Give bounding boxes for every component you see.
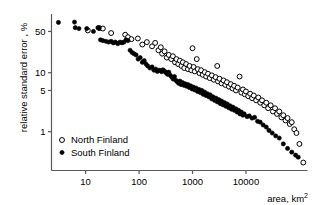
- data-point: [190, 46, 195, 51]
- data-point: [85, 26, 89, 30]
- data-point: [290, 150, 294, 154]
- data-point: [162, 49, 167, 54]
- data-point: [77, 26, 81, 30]
- data-point: [270, 131, 274, 135]
- data-point: [285, 146, 289, 150]
- x-tick-label: 100: [131, 176, 147, 187]
- legend-label: South Finland: [71, 147, 130, 158]
- data-point: [215, 64, 220, 69]
- y-tick-label: 5: [40, 85, 45, 96]
- data-point: [252, 115, 256, 119]
- x-tick-label: 1000: [182, 176, 203, 187]
- legend-marker-open-circle: [60, 138, 65, 143]
- scatter-chart-figure: 10100100010000151050 North FinlandSouth …: [0, 0, 312, 205]
- y-tick-label: 10: [35, 67, 46, 78]
- data-point: [97, 26, 101, 30]
- x-axis-title-exponent: 2: [304, 192, 308, 199]
- data-point: [194, 57, 199, 62]
- data-point: [135, 36, 140, 41]
- data-point: [153, 40, 158, 45]
- y-axis-title: relative standard error , %: [18, 3, 29, 153]
- legend-layer: North FinlandSouth Finland: [60, 134, 130, 158]
- data-point: [285, 116, 290, 121]
- data-point: [134, 53, 138, 57]
- data-point: [281, 142, 285, 146]
- data-point: [126, 38, 130, 42]
- data-point: [296, 155, 300, 159]
- x-axis-title-text: area, km: [267, 193, 304, 204]
- data-point: [277, 109, 282, 114]
- plot-canvas: 10100100010000151050 North FinlandSouth …: [0, 0, 312, 205]
- data-point: [297, 142, 302, 147]
- data-point: [289, 120, 294, 125]
- data-point: [91, 29, 95, 33]
- data-point: [138, 56, 142, 60]
- data-point: [158, 45, 163, 50]
- x-tick-label: 10: [80, 176, 91, 187]
- x-tick-label: 10000: [233, 176, 259, 187]
- data-point: [144, 40, 149, 45]
- x-axis-title: area, km2: [267, 192, 308, 204]
- data-point: [237, 74, 242, 79]
- data-point: [294, 131, 299, 136]
- data-point: [235, 85, 240, 90]
- legend-label: North Finland: [71, 134, 128, 145]
- data-point: [109, 31, 114, 36]
- legend-marker-filled-circle: [60, 150, 64, 154]
- data-point: [72, 20, 76, 24]
- data-point: [273, 106, 278, 111]
- data-point: [56, 20, 60, 24]
- data-point: [301, 160, 306, 165]
- y-tick-label: 1: [40, 126, 45, 137]
- y-tick-label: 50: [35, 26, 46, 37]
- data-point: [277, 136, 281, 140]
